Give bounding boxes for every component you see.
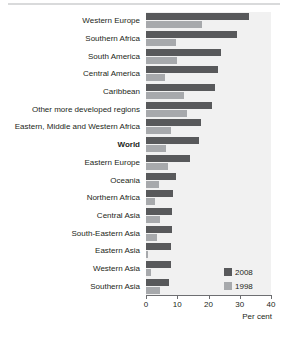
bar-group (146, 31, 271, 46)
bar-group (146, 208, 271, 223)
bar-1998 (146, 92, 184, 99)
bar-group (146, 243, 271, 258)
bar-1998 (146, 163, 168, 170)
bar-1998 (146, 57, 177, 64)
bar-1998 (146, 251, 148, 258)
chart-legend: 2008 1998 (224, 266, 253, 294)
bar-2008 (146, 208, 172, 215)
top-divider-rule (8, 3, 280, 5)
x-tick-mark (209, 295, 210, 299)
x-tick-label: 40 (267, 300, 276, 310)
legend-swatch-2008-icon (224, 268, 232, 276)
bar-1998 (146, 39, 176, 46)
bar-2008 (146, 155, 190, 162)
bar-2008 (146, 31, 237, 38)
x-tick-mark (271, 295, 272, 299)
plot-area (146, 12, 271, 295)
category-label: Oceania (110, 176, 140, 185)
bar-2008 (146, 243, 171, 250)
category-label: Caribbean (103, 87, 140, 96)
bar-group (146, 13, 271, 28)
bar-1998 (146, 74, 165, 81)
bar-2008 (146, 66, 218, 73)
bar-group (146, 66, 271, 81)
category-label: Southern Asia (90, 282, 140, 291)
bar-group (146, 119, 271, 134)
category-axis-labels: Western EuropeSouthern AfricaSouth Ameri… (0, 12, 142, 295)
bar-group (146, 137, 271, 152)
bar-1998 (146, 287, 160, 294)
bar-2008 (146, 102, 212, 109)
bar-group (146, 84, 271, 99)
bar-group (146, 102, 271, 117)
category-label: Southern Africa (85, 34, 140, 43)
bar-group (146, 49, 271, 64)
bar-1998 (146, 181, 159, 188)
bar-group (146, 155, 271, 170)
x-axis-title: Per cent (242, 312, 272, 322)
category-label: Central America (83, 69, 140, 78)
x-tick-label: 30 (235, 300, 244, 310)
bar-1998 (146, 198, 155, 205)
category-label: Eastern Europe (84, 158, 140, 167)
bar-2008 (146, 119, 201, 126)
chart-container: Western EuropeSouthern AfricaSouth Ameri… (0, 0, 288, 338)
bar-1998 (146, 269, 151, 276)
bar-1998 (146, 110, 187, 117)
category-label: Central Asia (97, 211, 140, 220)
bar-1998 (146, 216, 160, 223)
x-tick-mark (146, 295, 147, 299)
legend-item-2008: 2008 (224, 266, 253, 278)
bars-layer (146, 12, 271, 295)
x-tick-mark (240, 295, 241, 299)
x-tick-label: 10 (173, 300, 182, 310)
category-label: World (117, 140, 140, 149)
bar-group (146, 226, 271, 241)
category-label: Western Europe (82, 16, 140, 25)
bar-2008 (146, 173, 176, 180)
bar-1998 (146, 127, 171, 134)
legend-label-1998: 1998 (235, 282, 253, 291)
bar-1998 (146, 21, 202, 28)
bar-1998 (146, 234, 157, 241)
category-label: South America (88, 52, 140, 61)
category-label: Northern Africa (87, 193, 140, 202)
category-label: Western Asia (93, 264, 140, 273)
x-tick-label: 20 (204, 300, 213, 310)
bar-2008 (146, 261, 171, 268)
x-tick-mark (177, 295, 178, 299)
legend-label-2008: 2008 (235, 268, 253, 277)
category-label: South-Eastern Asia (72, 229, 140, 238)
legend-swatch-1998-icon (224, 282, 232, 290)
bar-2008 (146, 137, 199, 144)
legend-item-1998: 1998 (224, 280, 253, 292)
bar-2008 (146, 190, 173, 197)
bar-2008 (146, 279, 169, 286)
x-tick-label: 0 (144, 300, 148, 310)
bar-group (146, 173, 271, 188)
bar-2008 (146, 49, 221, 56)
bar-2008 (146, 13, 249, 20)
bar-group (146, 190, 271, 205)
bar-2008 (146, 226, 172, 233)
category-label: Eastern Asia (95, 246, 140, 255)
category-label: Other more developed regions (32, 105, 140, 114)
bar-2008 (146, 84, 215, 91)
category-label: Eastern, Middle and Western Africa (15, 122, 140, 131)
bar-1998 (146, 145, 166, 152)
